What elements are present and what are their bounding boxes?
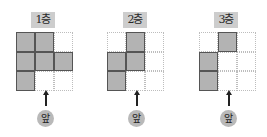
filled-cell [16,32,35,52]
filled-cell [35,32,54,52]
floor-grid [199,32,256,91]
filled-cell [199,52,218,72]
empty-cell [218,71,237,91]
filled-cell [218,32,237,52]
empty-cell [54,71,73,91]
empty-cell [199,32,218,52]
floor-label: 1층 [31,12,55,28]
floor-label: 3층 [214,12,238,28]
filled-cell [107,52,126,72]
filled-cell [107,71,126,91]
floor-1-panel: 1층 앞 [0,0,90,137]
empty-cell [237,52,256,72]
empty-cell [237,71,256,91]
floor-2-panel: 2층 앞 [91,0,181,137]
front-badge: 앞 [37,110,54,127]
floor-grid [16,32,73,91]
filled-cell [35,52,54,72]
front-badge: 앞 [220,110,237,127]
up-arrow-icon [45,94,47,106]
filled-cell [199,71,218,91]
filled-cell [126,52,145,72]
empty-cell [107,32,126,52]
filled-cell [16,71,35,91]
empty-cell [54,32,73,52]
floor-3-panel: 3층 앞 [182,0,267,137]
empty-cell [126,71,145,91]
up-arrow-icon [136,94,138,106]
empty-cell [237,32,256,52]
empty-cell [145,71,164,91]
empty-cell [145,52,164,72]
filled-cell [54,52,73,72]
filled-cell [16,52,35,72]
filled-cell [126,32,145,52]
empty-cell [35,71,54,91]
front-badge: 앞 [128,110,145,127]
floor-grid [107,32,164,91]
empty-cell [218,52,237,72]
empty-cell [145,32,164,52]
floor-label: 2층 [123,12,147,28]
up-arrow-icon [228,94,230,106]
